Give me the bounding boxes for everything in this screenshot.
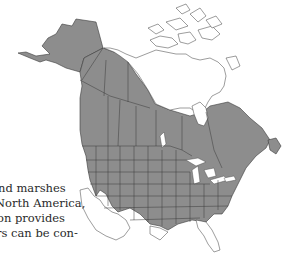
book-page: nd marshes North America, on provides rs… [0, 0, 283, 259]
text-line-2: North America, [0, 196, 100, 211]
text-line-3: on provides [0, 211, 100, 226]
body-text-fragment: nd marshes North America, on provides rs… [0, 181, 100, 241]
text-line-4: rs can be con- [0, 226, 100, 241]
text-line-1: nd marshes [0, 181, 100, 196]
